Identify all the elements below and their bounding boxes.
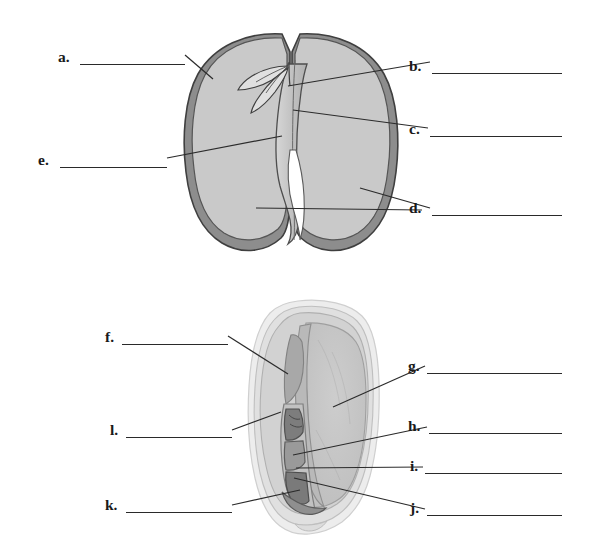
bean-left-half — [184, 34, 290, 251]
label-f: f. — [105, 329, 114, 345]
label-j: j. — [410, 500, 419, 516]
kernel-scutellum — [295, 324, 324, 507]
answer-blank-c[interactable] — [430, 136, 562, 137]
kernel-coleorhiza — [282, 492, 326, 514]
kernel-tip-cap — [295, 521, 327, 531]
answer-blank-j[interactable] — [427, 515, 562, 516]
kernel-coleoptile — [284, 441, 305, 470]
monocot-corn-kernel-figure — [0, 0, 599, 545]
label-d: d. — [409, 200, 422, 216]
dicot-bean-seed-figure — [0, 0, 599, 545]
label-b: b. — [409, 58, 422, 74]
leader-i — [296, 467, 423, 468]
kernel-plumule-detail-2 — [290, 424, 302, 427]
answer-blank-f[interactable] — [122, 344, 228, 345]
leader-a — [185, 55, 213, 79]
leader-f — [228, 336, 288, 374]
leader-l — [232, 412, 281, 430]
kernel-scutellum-tip — [284, 335, 303, 404]
worksheet-page: a.e.b.c.d.f.l.k.g.h.i.j. — [0, 0, 599, 545]
answer-blank-h[interactable] — [429, 433, 562, 434]
leader-j — [294, 478, 425, 509]
bean-right-half — [292, 34, 398, 251]
kernel-pericarp — [248, 300, 379, 534]
leader-c — [293, 110, 428, 128]
bean-inner-gap — [288, 150, 304, 240]
leader-h — [293, 427, 427, 455]
label-a: a. — [58, 49, 70, 65]
answer-blank-i[interactable] — [425, 473, 562, 474]
answer-blank-l[interactable] — [126, 437, 232, 438]
answer-blank-k[interactable] — [126, 512, 232, 513]
bean-plumule-leaves — [238, 62, 290, 113]
kernel-endosperm — [304, 323, 366, 507]
label-h: h. — [408, 418, 421, 434]
leader-d2 — [256, 208, 422, 210]
kernel-embryo-cavity — [281, 404, 315, 513]
kernel-radicle — [286, 472, 309, 504]
answer-blank-b[interactable] — [432, 73, 562, 74]
answer-blank-g[interactable] — [427, 373, 562, 374]
label-i: i. — [410, 458, 418, 474]
answer-blank-e[interactable] — [60, 167, 167, 168]
leader-k — [232, 490, 300, 505]
kernel-plumule-detail — [289, 415, 300, 419]
label-c: c. — [409, 121, 420, 137]
label-k: k. — [105, 497, 118, 513]
endosperm-texture — [316, 340, 350, 480]
kernel-plumule — [285, 409, 304, 440]
bean-embryo-axis — [276, 60, 307, 244]
answer-blank-a[interactable] — [80, 64, 185, 65]
label-l: l. — [110, 422, 118, 438]
label-g: g. — [408, 358, 420, 374]
answer-blank-d[interactable] — [432, 215, 562, 216]
label-e: e. — [38, 152, 49, 168]
leader-e — [167, 136, 282, 158]
leader-lines — [0, 0, 599, 545]
kernel-aleurone — [260, 313, 368, 515]
